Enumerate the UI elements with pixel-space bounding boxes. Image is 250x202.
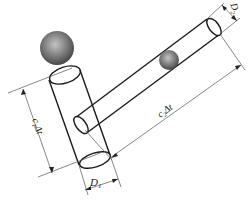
- label-c1-dt: c1Δt: [29, 117, 45, 136]
- label-d1: D1: [89, 176, 101, 190]
- diagram-canvas: c1Δt D1 c2Δt D2: [0, 0, 250, 202]
- large-particle: [40, 31, 74, 65]
- arrow-head-icon: [111, 153, 118, 158]
- svg-text:c1Δt: c1Δt: [29, 117, 45, 136]
- svg-text:c2Δt: c2Δt: [155, 101, 175, 120]
- arrow-head-icon: [222, 5, 227, 11]
- svg-text:D1: D1: [89, 176, 101, 190]
- cylinder-2: [71, 16, 224, 136]
- small-particle: [159, 50, 179, 70]
- arrow-head-icon: [21, 89, 26, 95]
- arrow-head-icon: [235, 65, 241, 70]
- arrow-head-icon: [112, 179, 118, 183]
- label-c2-dt: c2Δt: [155, 101, 175, 120]
